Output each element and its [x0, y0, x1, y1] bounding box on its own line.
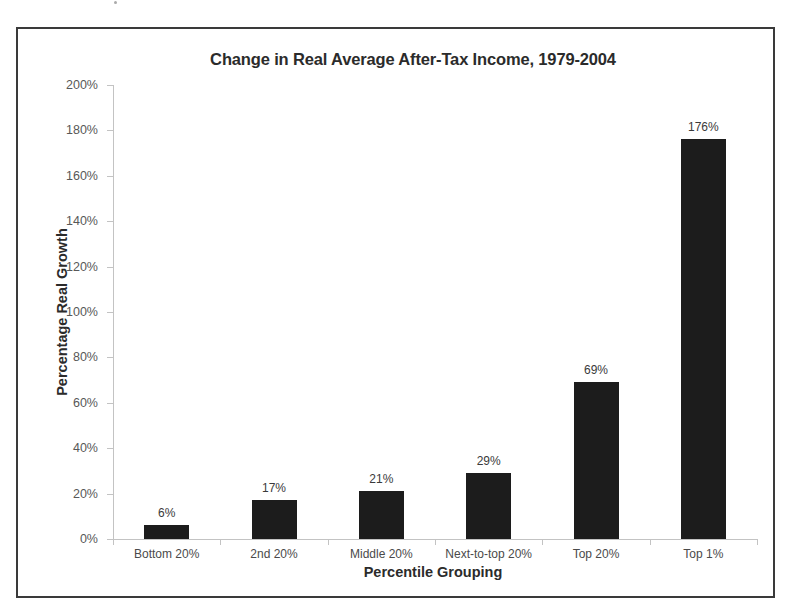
- bar-value-label: 69%: [584, 363, 608, 377]
- x-axis-tick: [113, 539, 114, 545]
- x-axis-category-label: Middle 20%: [350, 547, 413, 561]
- x-axis-category-label: Top 20%: [573, 547, 620, 561]
- y-axis-tick-label: 60%: [73, 396, 98, 410]
- bar: [144, 525, 189, 539]
- bar-value-label: 29%: [477, 454, 501, 468]
- bar-value-label: 17%: [262, 481, 286, 495]
- y-axis-tick-label: 180%: [66, 123, 98, 137]
- plot-area: 0%20%40%60%80%100%120%140%160%180%200% 6…: [113, 85, 757, 539]
- y-axis-tick-label: 80%: [73, 350, 98, 364]
- bar: [681, 139, 726, 539]
- x-axis-tick: [328, 539, 329, 545]
- x-axis-tick: [542, 539, 543, 545]
- y-axis-tick-label: 40%: [73, 441, 98, 455]
- x-axis-category-label: Bottom 20%: [134, 547, 199, 561]
- y-axis-tick-label: 120%: [66, 260, 98, 274]
- bar: [574, 382, 619, 539]
- bar-series: [113, 85, 757, 539]
- bar-value-label: 21%: [369, 472, 393, 486]
- chart-frame: Change in Real Average After-Tax Income,…: [16, 27, 775, 598]
- y-axis-tick-label: 0%: [80, 532, 98, 546]
- y-axis-tick-label: 200%: [66, 78, 98, 92]
- bar: [359, 491, 404, 539]
- scan-artifact-speck: [114, 1, 117, 4]
- bar: [466, 473, 511, 539]
- x-axis-category-label: Top 1%: [683, 547, 723, 561]
- chart-title: Change in Real Average After-Tax Income,…: [113, 50, 713, 69]
- x-axis-category-label: 2nd 20%: [250, 547, 297, 561]
- bar-value-label: 6%: [158, 506, 175, 520]
- y-axis-tick-label: 20%: [73, 487, 98, 501]
- x-axis-tick: [757, 539, 758, 545]
- x-axis-title: Percentile Grouping: [113, 564, 753, 580]
- bar-value-label: 176%: [688, 120, 719, 134]
- x-axis-tick: [435, 539, 436, 545]
- bar: [252, 500, 297, 539]
- x-axis-tick: [220, 539, 221, 545]
- x-axis-category-label: Next-to-top 20%: [445, 547, 532, 561]
- x-axis-tick: [650, 539, 651, 545]
- y-axis-tick-label: 160%: [66, 169, 98, 183]
- y-axis-tick-label: 100%: [66, 305, 98, 319]
- y-axis-tick-label: 140%: [66, 214, 98, 228]
